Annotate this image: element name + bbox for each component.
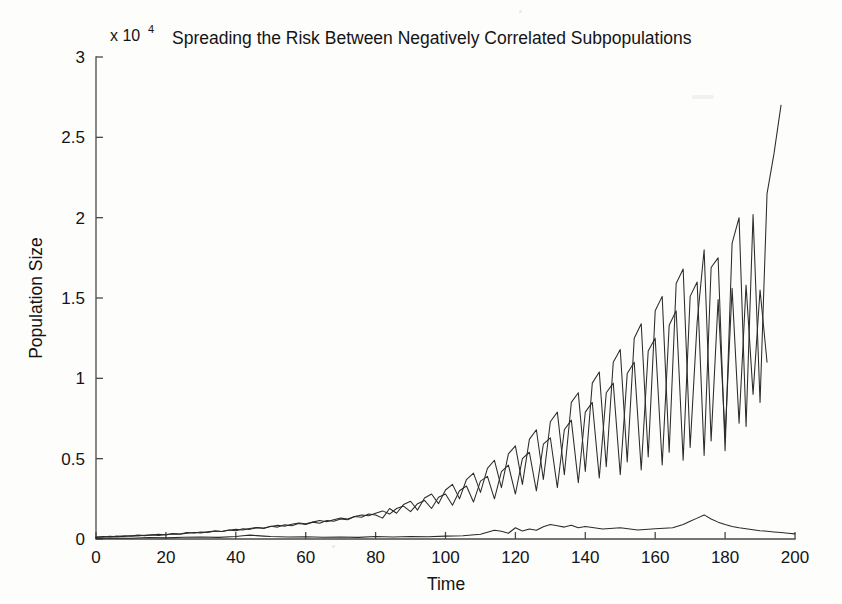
y-axis-exponent-power: 4 — [148, 23, 154, 35]
x-axis-title: Time — [427, 574, 465, 594]
x-tick-label: 20 — [156, 548, 175, 567]
x-tick-label: 200 — [781, 548, 809, 567]
series-line-1 — [96, 105, 781, 537]
y-tick-label: 1.5 — [61, 289, 85, 308]
x-tick-label: 140 — [571, 548, 599, 567]
x-tick-label: 40 — [226, 548, 245, 567]
y-tick-label: 0 — [76, 530, 85, 549]
figure-canvas: 00.511.522.53 02040608010012014016018020… — [0, 0, 842, 604]
y-tick-label: 3 — [76, 48, 85, 67]
y-tick-label: 1 — [76, 369, 85, 388]
y-axis-exponent-label: x 10 — [110, 27, 140, 44]
y-axis-tick-labels: 00.511.522.53 — [61, 48, 85, 549]
y-tick-label: 0.5 — [61, 450, 85, 469]
x-tick-label: 160 — [641, 548, 669, 567]
y-tick-label: 2 — [76, 209, 85, 228]
y-axis-ticks — [96, 57, 103, 539]
x-tick-label: 120 — [501, 548, 529, 567]
y-tick-label: 2.5 — [61, 128, 85, 147]
chart-title: Spreading the Risk Between Negatively Co… — [172, 28, 692, 48]
line-chart: 00.511.522.53 02040608010012014016018020… — [0, 0, 842, 604]
x-tick-label: 180 — [711, 548, 739, 567]
x-tick-label: 0 — [91, 548, 100, 567]
x-tick-label: 100 — [431, 548, 459, 567]
data-series-group — [96, 105, 795, 538]
x-axis-tick-labels: 020406080100120140160180200 — [91, 548, 809, 567]
x-tick-label: 80 — [366, 548, 385, 567]
x-tick-label: 60 — [296, 548, 315, 567]
y-axis-title: Population Size — [26, 237, 46, 359]
series-line-2 — [96, 250, 767, 538]
